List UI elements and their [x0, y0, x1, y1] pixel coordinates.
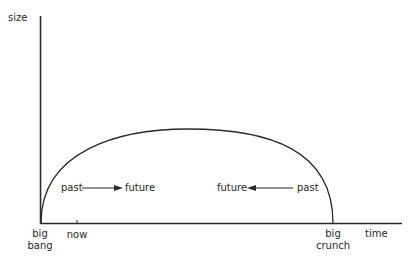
y-axis-label: size	[8, 12, 27, 24]
now-label: now	[65, 229, 89, 241]
right-arrow-past-label: past	[297, 182, 319, 194]
big-crunch-line1: big	[306, 228, 360, 240]
big-crunch-label: big crunch	[306, 228, 360, 252]
left-arrow-future-label: future	[125, 182, 155, 194]
diagram-canvas	[0, 0, 413, 264]
x-axis-label: time	[365, 228, 388, 240]
arrow-right-icon	[82, 185, 123, 191]
left-arrow-past-label: past	[61, 182, 83, 194]
universe-size-curve	[41, 129, 333, 223]
big-bang-line2: bang	[20, 240, 60, 252]
big-crunch-line2: crunch	[306, 240, 360, 252]
big-bang-line1: big	[20, 228, 60, 240]
arrow-left-icon	[247, 185, 293, 191]
right-arrow-future-label: future	[217, 182, 247, 194]
big-bang-label: big bang	[20, 228, 60, 252]
